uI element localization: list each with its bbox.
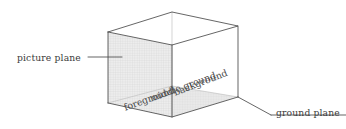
label-picture-plane: picture plane [17,53,81,62]
label-ground-plane: ground plane [276,108,340,117]
perspective-box-diagram: picture plane ground plane background mi… [0,0,346,129]
